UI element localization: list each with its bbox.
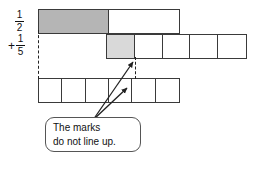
fifths-bar-cell-shaded [107, 35, 135, 58]
dashed-guide-line-right [135, 57, 136, 79]
sixths-bar-cell [156, 79, 179, 102]
callout-box: The marks do not line up. [45, 117, 141, 152]
fifths-bar-cell [190, 35, 218, 58]
callout-line-1: The marks [53, 121, 140, 135]
numerator: 1 [17, 34, 25, 45]
fraction-one-fifth: 1 5 [16, 34, 25, 57]
halves-bar-cell-shaded [39, 10, 109, 33]
callout-line-2: do not line up. [53, 135, 140, 149]
sixths-bar-cell [62, 79, 85, 102]
sixths-bar-cell [39, 79, 62, 102]
fraction-one-half: 1 2 [15, 10, 24, 33]
sixths-bar-cell [109, 79, 132, 102]
denominator: 2 [16, 22, 24, 33]
denominator: 5 [17, 46, 25, 57]
fifths-bar-cell [218, 35, 246, 58]
fifths-bar-cell [135, 35, 163, 58]
fifths-bar [106, 34, 247, 59]
sixths-bar-cell [86, 79, 109, 102]
fifths-bar-cell [163, 35, 191, 58]
dashed-guide-line-left [38, 30, 39, 79]
sixths-bar [38, 78, 180, 103]
fraction-diagram-figure: 1 2 + 1 5 [0, 0, 257, 171]
fraction-label-one-half: 1 2 [14, 10, 24, 33]
halves-bar-cell [109, 10, 179, 33]
sixths-bar-cell [132, 79, 155, 102]
operator-symbol-plus: + [8, 40, 15, 52]
fraction-label-one-fifth: + 1 5 [8, 34, 25, 57]
halves-bar [38, 9, 180, 34]
numerator: 1 [16, 10, 24, 21]
